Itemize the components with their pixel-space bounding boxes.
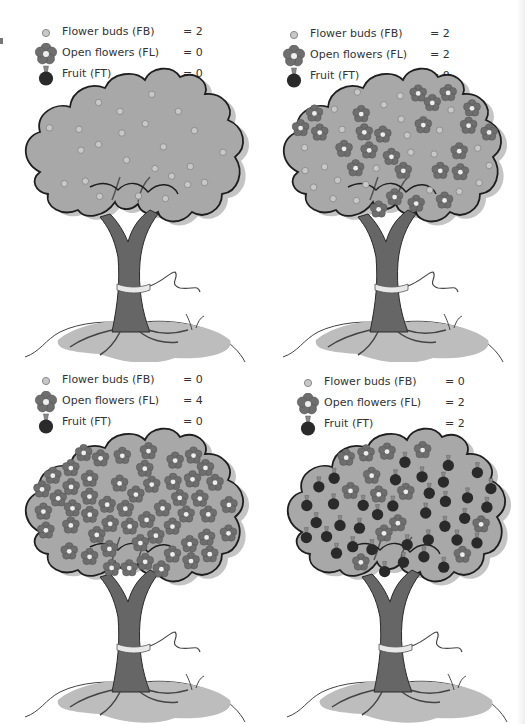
tree-illustration bbox=[0, 0, 262, 362]
panel-bottom-left: Flower buds (FB) = 0 Open flowers (FL) =… bbox=[0, 362, 262, 724]
tree-illustration bbox=[262, 362, 524, 724]
panel-top-right: Flower buds (FB) = 2 Open flowers (FL) =… bbox=[262, 0, 524, 362]
panel-bottom-right: Flower buds (FB) = 0 Open flowers (FL) =… bbox=[262, 362, 524, 724]
panel-top-left: Flower buds (FB) = 2 Open flowers (FL) =… bbox=[0, 0, 262, 362]
tree-illustration bbox=[262, 0, 524, 362]
tree-illustration bbox=[0, 362, 262, 724]
